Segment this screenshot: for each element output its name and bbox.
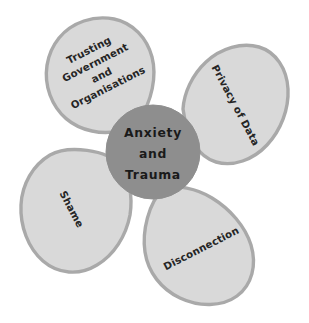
center-node-anxiety-and-trauma[interactable]: Anxiety and Trauma	[106, 105, 200, 199]
center-label-line-trauma: Trauma	[125, 167, 181, 182]
petal-diagram: Trusting Government and Organisations Pr…	[0, 0, 309, 323]
center-label-line-anxiety: Anxiety	[124, 125, 182, 140]
center-label-line-and: and	[139, 146, 167, 161]
flower-diagram-canvas: Trusting Government and Organisations Pr…	[0, 0, 309, 323]
petal-disconnection[interactable]: Disconnection	[144, 187, 253, 305]
